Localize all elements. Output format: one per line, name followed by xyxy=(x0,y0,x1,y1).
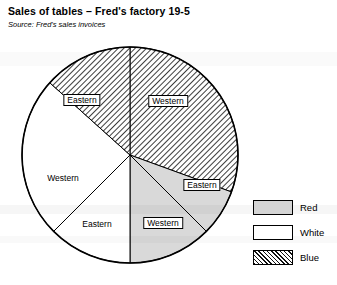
source-note: Source: Fred's sales invoices xyxy=(8,20,105,29)
pie-slice-label: Western xyxy=(148,95,188,107)
legend-item-white: White xyxy=(253,221,335,243)
legend-swatch-red xyxy=(253,200,293,215)
pie-slice-label: Western xyxy=(143,217,183,229)
legend-label-red: Red xyxy=(300,202,317,213)
legend-label-blue: Blue xyxy=(300,252,319,263)
pie-slice-label: Eastern xyxy=(63,94,100,106)
pie-chart-svg xyxy=(0,30,250,280)
legend-swatch-blue xyxy=(253,250,293,265)
pie-slice-label: Eastern xyxy=(79,218,114,230)
legend-label-white: White xyxy=(300,227,324,238)
legend-item-blue: Blue xyxy=(253,246,335,268)
legend: Red White Blue xyxy=(253,196,335,271)
pie-slice-label: Western xyxy=(44,172,82,184)
pie-slice-label: Eastern xyxy=(183,179,220,191)
legend-swatch-white xyxy=(253,225,293,240)
chart-page: Sales of tables – Fred's factory 19-5 So… xyxy=(0,0,337,285)
pie-chart xyxy=(0,30,250,280)
legend-item-red: Red xyxy=(253,196,335,218)
page-title: Sales of tables – Fred's factory 19-5 xyxy=(8,5,190,17)
